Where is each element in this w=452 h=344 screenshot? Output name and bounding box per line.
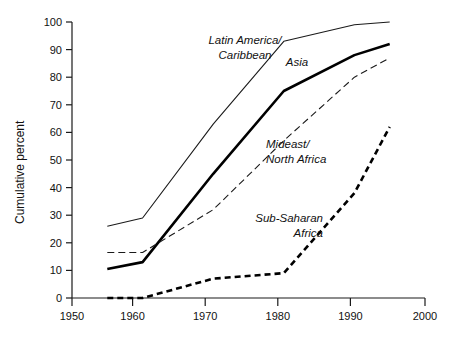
series-label-subsaharan-line2: Africa — [293, 227, 323, 239]
y-label-40: 40 — [50, 182, 62, 194]
x-label-1960: 1960 — [120, 310, 144, 322]
series-line-mideast — [107, 58, 389, 253]
x-label-1980: 1980 — [266, 310, 290, 322]
y-label-0: 0 — [56, 292, 62, 304]
y-label-90: 90 — [50, 44, 62, 56]
y-label-100: 100 — [44, 16, 62, 28]
y-label-60: 60 — [50, 126, 62, 138]
chart-container: Cumulative percent 100 90 80 70 60 50 — [0, 0, 452, 344]
series-label-latin-america-line1: Latin America/ — [208, 34, 283, 46]
series-label-mideast-line2: North Africa — [266, 153, 326, 165]
x-label-2000: 2000 — [413, 310, 437, 322]
x-label-1950: 1950 — [60, 310, 84, 322]
y-axis-ticks — [66, 22, 72, 298]
series-label-latin-america-line2: Caribbean — [218, 49, 271, 61]
y-label-70: 70 — [50, 99, 62, 111]
x-label-1990: 1990 — [338, 310, 362, 322]
y-axis-title: Cumulative percent — [13, 120, 27, 224]
series-layer — [107, 22, 389, 298]
x-axis-ticks — [72, 298, 425, 306]
series-label-subsaharan-line1: Sub-Saharan — [255, 212, 323, 224]
series-line-asia — [107, 44, 389, 269]
series-line-sub-saharan — [107, 127, 389, 298]
y-label-10: 10 — [50, 264, 62, 276]
y-label-30: 30 — [50, 209, 62, 221]
series-label-asia: Asia — [285, 56, 308, 68]
x-axis-tick-labels: 1950 1960 1970 1980 1990 2000 — [60, 310, 437, 322]
y-label-50: 50 — [50, 154, 62, 166]
y-label-80: 80 — [50, 71, 62, 83]
y-axis-tick-labels: 100 90 80 70 60 50 40 30 20 10 0 — [44, 16, 62, 304]
y-label-20: 20 — [50, 237, 62, 249]
x-label-1970: 1970 — [193, 310, 217, 322]
line-chart: Cumulative percent 100 90 80 70 60 50 — [0, 0, 452, 344]
series-label-mideast-line1: Mideast/ — [266, 138, 311, 150]
